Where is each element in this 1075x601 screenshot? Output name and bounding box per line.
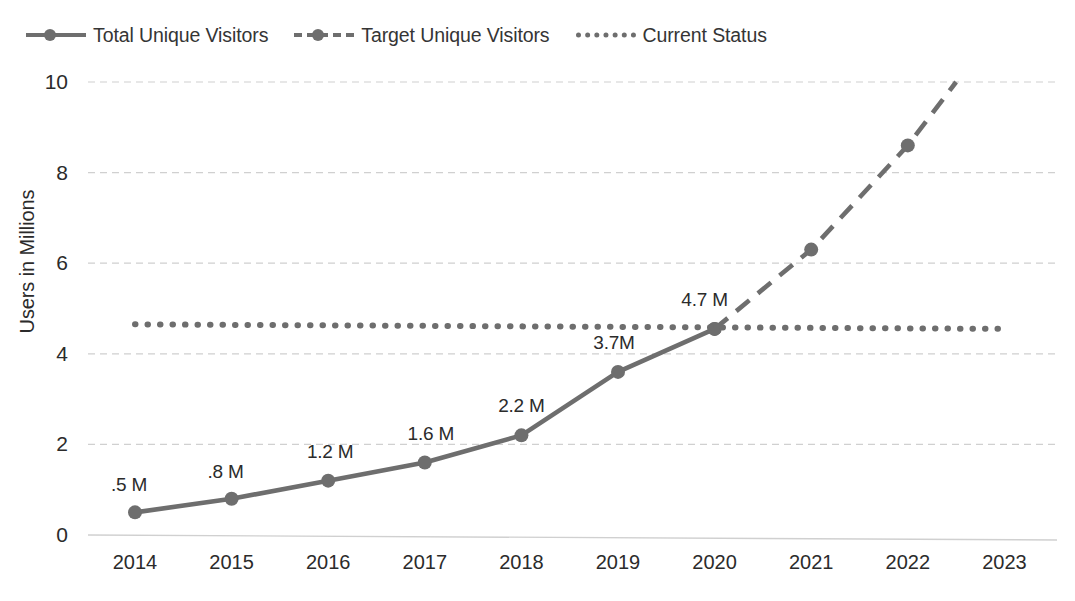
data-point-label: 1.2 M xyxy=(307,441,354,463)
legend-key-dotted-line-icon xyxy=(576,26,636,44)
data-point-label: .5 M xyxy=(111,474,147,496)
x-tick-label: 2017 xyxy=(380,551,470,574)
x-tick-label: 2015 xyxy=(187,551,277,574)
x-tick-label: 2023 xyxy=(959,551,1049,574)
legend-label-total-unique-visitors: Total Unique Visitors xyxy=(93,24,268,47)
legend-item-target-unique-visitors[interactable]: Target Unique Visitors xyxy=(294,24,549,47)
y-tick-label: 4 xyxy=(22,342,68,366)
x-tick-label: 2016 xyxy=(283,551,373,574)
chart-legend: Total Unique Visitors Target Unique Visi… xyxy=(0,18,1075,52)
x-tick-label: 2019 xyxy=(573,551,663,574)
series-line xyxy=(135,324,1004,329)
data-point-marker[interactable] xyxy=(128,505,142,519)
y-tick-label: 10 xyxy=(22,70,68,94)
data-point-label: .8 M xyxy=(208,461,244,483)
chart-container: Total Unique Visitors Target Unique Visi… xyxy=(0,0,1075,601)
data-point-label: 3.7M xyxy=(593,332,634,354)
plot-area xyxy=(0,0,1075,601)
y-tick-label: 6 xyxy=(22,251,68,275)
data-point-marker[interactable] xyxy=(708,322,722,336)
legend-item-current-status[interactable]: Current Status xyxy=(576,24,767,47)
data-point-marker[interactable] xyxy=(901,138,915,152)
grid-line xyxy=(88,535,1057,540)
data-point-marker[interactable] xyxy=(611,365,625,379)
y-tick-label: 2 xyxy=(22,432,68,456)
series-line xyxy=(135,329,715,512)
legend-key-dashed-line-icon xyxy=(294,26,354,44)
x-tick-label: 2014 xyxy=(90,551,180,574)
data-point-label: 4.7 M xyxy=(681,289,728,311)
legend-key-solid-line-icon xyxy=(26,26,86,44)
y-tick-label: 0 xyxy=(22,523,68,547)
data-point-label: 2.2 M xyxy=(498,395,545,417)
x-tick-label: 2021 xyxy=(766,551,856,574)
data-point-label: 1.6 M xyxy=(408,423,455,445)
legend-item-total-unique-visitors[interactable]: Total Unique Visitors xyxy=(26,24,268,47)
legend-label-target-unique-visitors: Target Unique Visitors xyxy=(361,24,549,47)
series-line xyxy=(715,82,957,329)
x-tick-label: 2022 xyxy=(863,551,953,574)
legend-label-current-status: Current Status xyxy=(643,24,767,47)
y-tick-label: 8 xyxy=(22,161,68,185)
data-point-marker[interactable] xyxy=(418,456,432,470)
x-tick-label: 2020 xyxy=(670,551,760,574)
data-point-marker[interactable] xyxy=(225,492,239,506)
data-point-marker[interactable] xyxy=(708,322,722,336)
data-point-marker[interactable] xyxy=(804,243,818,257)
data-point-marker[interactable] xyxy=(321,474,335,488)
x-tick-label: 2018 xyxy=(476,551,566,574)
data-point-marker[interactable] xyxy=(514,428,528,442)
